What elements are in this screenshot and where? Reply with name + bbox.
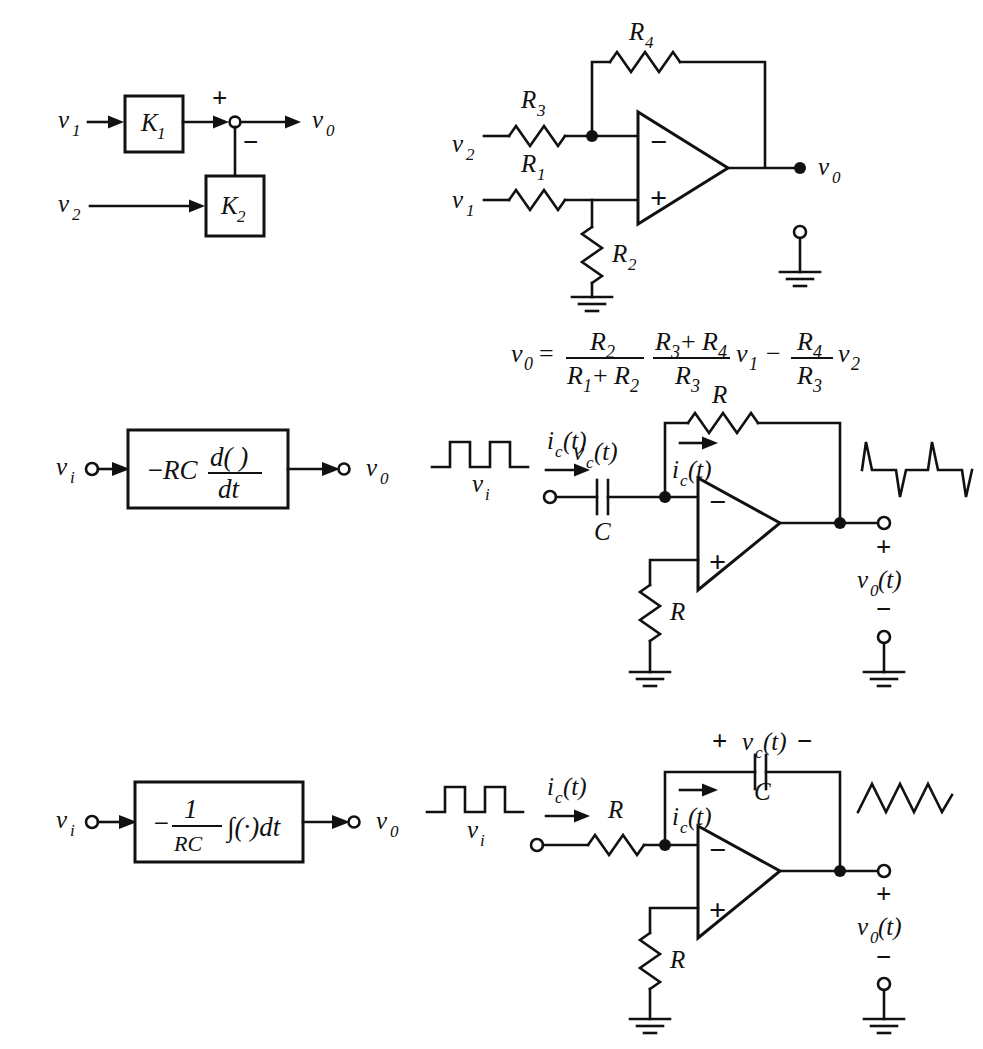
arrow-v2-into-k2: [189, 200, 205, 213]
circuit-input-label-v1: v: [452, 186, 464, 213]
int-output-minus: −: [876, 942, 891, 972]
diff-feedback-resistor: [688, 413, 758, 433]
spike-wave-output: [862, 442, 972, 497]
capacitor-voltage-label-sub: c: [586, 453, 594, 472]
diff-input-terminal: [544, 491, 556, 503]
diff-ground-symbol-left: [630, 672, 670, 686]
resistor-r4-label: R: [628, 18, 644, 45]
resistor-r4: [610, 52, 680, 72]
block-k1-label-sub: 1: [157, 124, 166, 143]
ground-symbol-r2: [572, 297, 612, 311]
eq-var1-sub: 1: [749, 354, 758, 374]
integrator-circuit: v i i c (t) R C + v c (t) − i c (t): [427, 726, 952, 1033]
diff-opamp-minus: −: [709, 485, 726, 518]
opamp-minus-sign: −: [650, 125, 667, 158]
diff-input-waveform-label: v: [472, 470, 484, 497]
integrator-block-diagram: v i − 1 RC ∫(·)dt v 0: [56, 782, 399, 862]
resistor-r1-label: R: [520, 150, 536, 177]
input-label-v2: v: [58, 190, 70, 217]
eq-term2-den-sub: 3: [690, 376, 700, 396]
eq-term1-den-1-sub: 1: [583, 376, 592, 396]
arrow-into-sum-plus: [213, 116, 229, 129]
resistor-r3-label-sub: 3: [536, 101, 546, 120]
eq-term3-den-sub: 3: [812, 376, 822, 396]
difference-amplifier-block-diagram: v 1 K 1 + − v 0 K 2 v 2: [58, 83, 335, 236]
ground-terminal-reference: [780, 226, 820, 286]
eq-term2-num-2: R: [701, 327, 718, 356]
circuit-input-label-v2: v: [452, 130, 464, 157]
eq-term3-den: R: [796, 361, 813, 390]
eq-minus: −: [766, 339, 781, 368]
int-block-input-terminal: [86, 816, 98, 828]
diff-opamp-plus: +: [709, 545, 726, 578]
circuit-input-label-v2-sub: 2: [466, 145, 475, 164]
diff-output-minus: −: [876, 594, 891, 624]
int-output-plus: +: [876, 879, 891, 909]
resistor-r2-label-sub: 2: [628, 255, 637, 274]
opamp-plus-sign: +: [650, 181, 667, 214]
diff-block-output-terminal: [339, 464, 350, 475]
resistor-r2-label: R: [611, 240, 627, 267]
eq-term2-num-op: +: [681, 327, 696, 356]
int-opamp-minus: −: [709, 833, 726, 866]
diff-feedback-right: [758, 423, 840, 522]
triangle-wave-output: [858, 784, 952, 812]
eq-term2-den: R: [674, 361, 691, 390]
int-capacitor-voltage-label-arg: (t): [763, 728, 787, 756]
int-input-resistor: [588, 835, 644, 855]
eq-term1-den-op: +: [593, 361, 608, 390]
eq-var2-sub: 2: [851, 354, 860, 374]
int-opamp-plus: +: [709, 893, 726, 926]
diff-block-output-label-sub: 0: [380, 469, 389, 488]
diff-block-input-label: v: [56, 453, 68, 480]
difference-amplifier-circuit: R 4 v 2 R 3 v 1 R 1 R 2 − +: [452, 18, 841, 311]
int-noninv-wire: [650, 908, 698, 933]
eq-term3-num: R: [796, 327, 813, 356]
diff-output-node: [834, 517, 846, 529]
diff-block-sign: −: [146, 455, 164, 485]
diff-output-label-arg: (t): [878, 566, 902, 594]
summing-plus-sign: +: [212, 83, 227, 113]
diff-ground-resistor: [640, 585, 660, 641]
equation-lhs-sub: 0: [524, 354, 533, 374]
int-capacitor-minus: −: [797, 726, 812, 756]
summing-minus-sign: −: [243, 127, 258, 157]
int-capacitor-voltage-label-sub: c: [755, 743, 763, 762]
circuit-figure: v 1 K 1 + − v 0 K 2 v 2: [0, 0, 983, 1049]
int-ground-resistor-label: R: [669, 946, 685, 973]
diff-input-waveform-label-sub: i: [485, 485, 490, 504]
difference-amplifier-equation: v 0 = R 2 R 1 + R 2 R 3 + R 4 R 3 v 1 − …: [511, 327, 860, 396]
diff-block-output-label: v: [366, 454, 378, 481]
int-block-integral: ∫(·)dt: [225, 812, 282, 844]
diff-noninv-wire: [650, 560, 698, 585]
resistor-r4-label-sub: 4: [645, 33, 654, 52]
int-capacitor-plus: +: [712, 726, 727, 756]
output-label-v0-sub: 0: [326, 121, 335, 140]
int-ground-resistor: [640, 933, 660, 989]
diff-output-terminal-neg: [878, 631, 890, 643]
int-capacitor-label-c: C: [754, 778, 771, 805]
resistor-r3-label: R: [520, 86, 536, 113]
diff-output-plus: +: [876, 532, 891, 562]
int-block-numerator: 1: [184, 794, 198, 824]
int-ground-symbol-right: [864, 1019, 904, 1033]
int-current-in-arrowhead: [574, 810, 590, 823]
differentiator-block-diagram: v i − RC d( ) dt v 0: [56, 430, 389, 508]
circuit-output-label-v0-sub: 0: [832, 168, 841, 187]
int-input-waveform-label: v: [467, 816, 479, 843]
equation-lhs: v: [511, 339, 523, 368]
input-label-v1-sub: 1: [72, 121, 81, 140]
eq-var2: v: [838, 339, 850, 368]
arrow-to-v0: [285, 116, 301, 129]
int-output-node: [834, 865, 846, 877]
diff-current-fb-label: i: [672, 456, 679, 483]
capacitor-label-c: C: [594, 518, 611, 545]
int-feedback-right: [766, 772, 840, 870]
diff-ground-symbol-right: [864, 672, 904, 686]
node-output: [794, 162, 806, 174]
differentiator-circuit: v i i c (t) C v c (t) R i c (t) −: [432, 381, 972, 686]
int-block-input-label: v: [56, 806, 68, 833]
int-block-output-terminal: [349, 817, 360, 828]
diff-current-fb-label-sub: c: [680, 471, 688, 490]
circuit-input-label-v1-sub: 1: [466, 201, 475, 220]
